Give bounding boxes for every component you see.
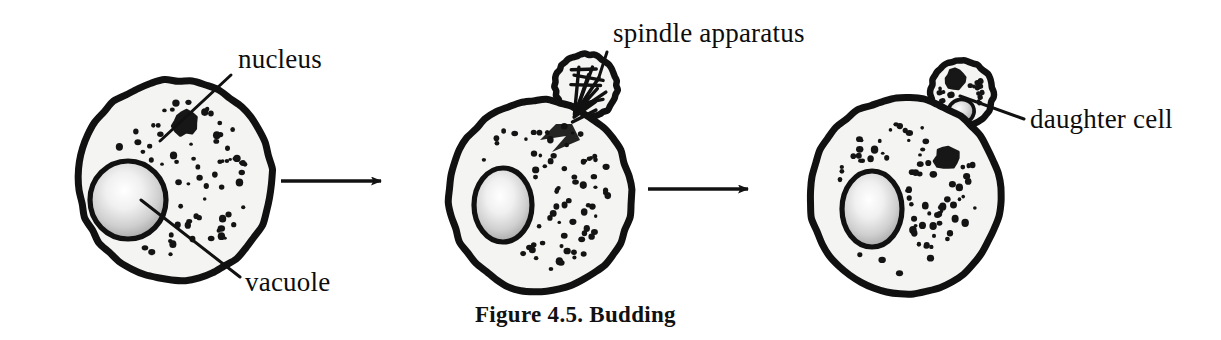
budding-diagram: nucleusvacuolespindle apparatusdaughter … (0, 0, 1221, 340)
cytoplasmic-granule (917, 161, 924, 167)
cytoplasmic-granule (191, 157, 196, 161)
cytoplasmic-granule (543, 164, 548, 168)
cytoplasmic-granule (896, 270, 903, 276)
cytoplasmic-granule (175, 179, 182, 185)
cytoplasmic-granule (927, 211, 931, 215)
cytoplasmic-granule (856, 136, 863, 142)
cytoplasmic-granule (160, 163, 164, 166)
cytoplasmic-granule (593, 185, 597, 189)
cytoplasmic-granule (925, 160, 931, 166)
labels-layer: nucleusvacuolespindle apparatusdaughter … (238, 18, 1173, 297)
cytoplasmic-granule (208, 110, 214, 116)
cytoplasmic-granule (912, 169, 919, 176)
cytoplasmic-granule (482, 158, 486, 162)
cytoplasmic-granule (917, 242, 921, 247)
cytoplasmic-granule (531, 150, 537, 156)
cytoplasmic-granule (169, 232, 174, 237)
cytoplasmic-granule (133, 129, 138, 135)
cells-layer (68, 46, 1009, 302)
cytoplasmic-granule (594, 214, 597, 218)
cytoplasmic-granule (603, 188, 608, 194)
cytoplasmic-granule (147, 144, 152, 149)
cytoplasmic-granule (189, 143, 193, 146)
cytoplasmic-granule (195, 164, 200, 169)
cytoplasmic-granule (225, 159, 229, 163)
cytoplasmic-granule (557, 221, 561, 224)
cytoplasmic-granule (963, 173, 970, 179)
cytoplasmic-granule (591, 174, 597, 179)
cytoplasmic-granule (973, 206, 977, 210)
cytoplasmic-granule (556, 257, 563, 265)
cytoplasmic-granule (571, 174, 577, 179)
cytoplasmic-granule (537, 130, 543, 136)
cytoplasmic-granule (939, 203, 946, 211)
cytoplasmic-granule (233, 155, 240, 162)
cytoplasmic-granule (927, 255, 934, 262)
cytoplasmic-granule (856, 153, 862, 159)
cytoplasmic-granule (856, 146, 863, 153)
cell-stage-2 (442, 46, 639, 297)
cytoplasmic-granule (169, 240, 176, 248)
cytoplasmic-granule (950, 202, 957, 209)
cytoplasmic-granule (221, 159, 225, 163)
cytoplasmic-granule (838, 177, 843, 182)
cytoplasmic-granule (562, 166, 568, 171)
cell-stage-3 (801, 55, 1009, 302)
cytoplasmic-granule (566, 198, 572, 203)
cytoplasmic-granule (241, 205, 245, 209)
cytoplasmic-granule (156, 123, 161, 128)
cytoplasmic-granule (116, 143, 123, 151)
cytoplasmic-granule (907, 195, 912, 201)
cytoplasmic-granule (551, 153, 557, 159)
cytoplasmic-granule (858, 159, 863, 163)
cytoplasmic-granule (840, 165, 844, 169)
cytoplasmic-granule (236, 179, 244, 187)
cytoplasmic-granule (893, 122, 898, 126)
cytoplasmic-granule (603, 164, 610, 170)
cytoplasmic-granule (148, 249, 155, 255)
cytoplasmic-granule (219, 184, 225, 189)
cytoplasmic-granule (918, 153, 922, 156)
cytoplasmic-granule (949, 181, 956, 187)
nucleus (934, 147, 958, 167)
cytoplasmic-granule (867, 155, 873, 162)
cytoplasmic-granule (906, 130, 913, 136)
figure-budding: nucleusvacuolespindle apparatusdaughter … (0, 0, 1221, 340)
cytoplasmic-granule (929, 222, 936, 230)
cytoplasmic-granule (174, 160, 179, 164)
cytoplasmic-granule (501, 128, 506, 133)
cytoplasmic-granule (905, 189, 910, 193)
cytoplasmic-granule (197, 215, 202, 220)
cytoplasmic-granule (591, 229, 598, 235)
vacuole-label: vacuole (245, 267, 330, 297)
cytoplasmic-granule (923, 138, 930, 144)
vacuole (474, 168, 532, 242)
cytoplasmic-granule (563, 248, 570, 255)
cytoplasmic-granule (240, 160, 246, 166)
cytoplasmic-granule (559, 244, 563, 248)
cytoplasmic-granule (554, 189, 559, 194)
cytoplasmic-granule (225, 211, 231, 217)
cytoplasmic-granule (532, 166, 539, 173)
cytoplasmic-granule (178, 204, 183, 209)
cytoplasmic-granule (945, 237, 950, 241)
cytoplasmic-granule (871, 146, 878, 154)
cytoplasmic-granule (225, 145, 230, 151)
cytoplasmic-granule (562, 202, 568, 209)
cytoplasmic-granule (186, 182, 190, 185)
cytoplasmic-granule (878, 257, 885, 263)
cytoplasmic-granule (958, 197, 962, 201)
cell-stage-1 (68, 69, 283, 291)
cytoplasmic-granule (539, 153, 543, 157)
cytoplasmic-granule (185, 222, 191, 229)
cytoplasmic-granule (185, 100, 191, 105)
cytoplasmic-granule (213, 131, 221, 139)
cytoplasmic-granule (584, 225, 590, 232)
cytoplasmic-granule (961, 195, 965, 199)
cytoplasmic-granule (534, 256, 539, 260)
cytoplasmic-granule (223, 237, 226, 240)
cytoplasmic-granule (524, 137, 528, 141)
cytoplasmic-granule (947, 230, 953, 237)
cytoplasmic-granule (961, 219, 969, 227)
cytoplasmic-granule (884, 155, 889, 161)
